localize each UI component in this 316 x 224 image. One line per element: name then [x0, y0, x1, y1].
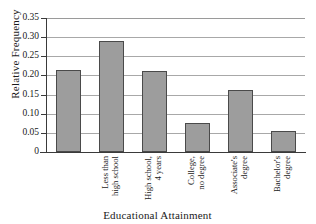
bar: [56, 70, 80, 152]
y-axis-tick-label: 0.25: [1, 51, 39, 61]
y-axis-tick-label: 0: [1, 147, 39, 157]
y-axis-tick-label: 0.05: [1, 128, 39, 138]
y-axis-tick-mark: [41, 152, 47, 153]
bar: [271, 131, 295, 152]
x-axis-category-label: Graduate or Professional degree: [315, 156, 316, 218]
bar: [228, 90, 252, 152]
y-axis-tick-label: 0.20: [1, 70, 39, 80]
gridline: [47, 95, 305, 96]
x-axis-category-label: Associate's degree: [229, 156, 249, 218]
y-axis-tick-label: 0.10: [1, 109, 39, 119]
bar: [99, 41, 123, 152]
y-axis-tick-mark: [41, 56, 47, 57]
y-axis-tick-label: 0.15: [1, 90, 39, 100]
x-axis-category-label: Less than high school: [100, 156, 120, 218]
y-axis-tick-mark: [41, 18, 47, 19]
x-axis-line: [40, 152, 306, 153]
gridline: [47, 114, 305, 115]
y-axis-tick-label: 0.30: [1, 32, 39, 42]
y-axis-tick-mark: [41, 75, 47, 76]
gridline: [47, 37, 305, 38]
gridline: [47, 56, 305, 57]
y-axis-tick-mark: [41, 133, 47, 134]
plot-top-border: [47, 18, 305, 19]
x-axis-category-label: High school, 4 years: [143, 156, 163, 218]
gridline: [47, 75, 305, 76]
y-axis-tick-label: 0.35: [1, 13, 39, 23]
x-axis-category-label: Bachelor's degree: [272, 156, 292, 218]
x-axis-category-label: College, no degree: [186, 156, 206, 218]
bar: [185, 123, 209, 152]
y-axis-tick-mark: [41, 95, 47, 96]
y-axis-tick-mark: [41, 114, 47, 115]
bar: [142, 71, 166, 152]
gridline: [47, 133, 305, 134]
plot-area: [47, 18, 305, 152]
bar-chart: Relative Frequency 00.050.100.150.200.25…: [0, 0, 315, 224]
y-axis-tick-mark: [41, 37, 47, 38]
y-axis-tick-labels: 00.050.100.150.200.250.300.35: [0, 0, 39, 224]
